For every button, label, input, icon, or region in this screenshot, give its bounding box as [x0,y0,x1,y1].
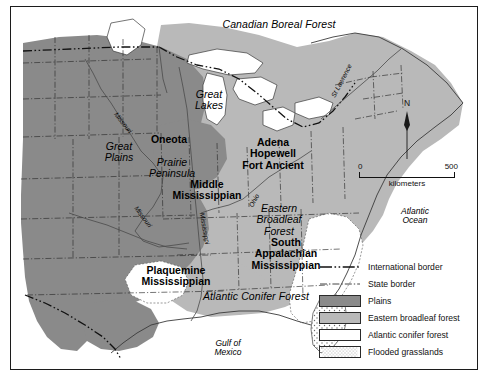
scale-bar-min-label: 0 [358,162,362,171]
label-atlantic-conifer-forest: Atlantic Conifer Forest [203,291,309,302]
legend-label-flooded-grasslands: Flooded grasslands [368,347,443,357]
label-oneota: Oneota [151,134,187,145]
label-adena-hopewell-fort-ancient: Adena Hopewell Fort Ancient [242,137,303,171]
legend-item-atlantic-conifer-forest: Atlantic conifer forest [319,327,471,343]
state-border-line-icon [319,278,361,290]
atlantic-conifer-forest-swatch [319,329,361,341]
label-great-lakes: Great Lakes [195,89,223,112]
scale-bar-max-label: 500 [445,162,458,171]
label-middle-mississippian: Middle Mississippian [173,179,242,202]
scale-bar: 0 500 kilometers [359,162,455,188]
label-gulf-of-mexico: Gulf of Mexico [215,339,242,357]
label-atlantic-ocean: Atlantic Ocean [401,207,429,225]
label-plaquemine-mississippian: Plaquemine Mississippian [142,265,211,288]
scale-bar-rule [359,172,455,178]
legend-item-state-border: State border [319,276,471,292]
north-arrow-needle [401,109,413,161]
north-arrow: N [394,99,420,161]
label-south-appalachian-mississippian: South Appalachian Mississippian [252,237,321,271]
scale-bar-endlabels: 0 500 [359,162,455,172]
map-frame: Canadian Boreal Forest Eastern Broadleaf… [10,6,478,370]
legend-label-atlantic-conifer-forest: Atlantic conifer forest [368,330,448,340]
legend-item-flooded-grasslands: Flooded grasslands [319,344,471,360]
scale-bar-units-label: kilometers [359,179,455,188]
map-figure: Canadian Boreal Forest Eastern Broadleaf… [0,0,487,391]
label-prairie-peninsula: Prairie Peninsula [149,157,195,180]
legend-label-state-border: State border [368,279,415,289]
legend-item-plains: Plains [319,293,471,309]
label-canadian-boreal-forest: Canadian Boreal Forest [222,19,335,30]
eastern-broadleaf-forest-swatch [319,312,361,324]
legend: International border State border Plains… [319,259,471,361]
legend-label-eastern-broadleaf-forest: Eastern broadleaf forest [368,313,460,323]
legend-label-international-border: International border [368,262,443,272]
label-eastern-broadleaf-forest: Eastern Broadleaf Forest [257,203,302,237]
flooded-grasslands-swatch [319,346,361,358]
label-great-plains: Great Plains [105,141,134,164]
international-border-line-icon [319,261,361,273]
legend-item-international-border: International border [319,259,471,275]
legend-item-eastern-broadleaf-forest: Eastern broadleaf forest [319,310,471,326]
north-arrow-label: N [394,99,420,108]
plains-swatch [319,295,361,307]
legend-label-plains: Plains [368,296,391,306]
